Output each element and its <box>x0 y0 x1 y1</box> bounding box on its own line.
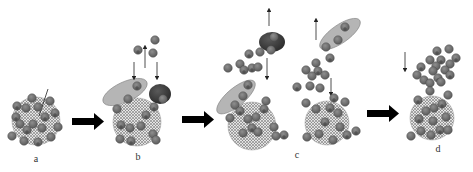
particle <box>341 98 350 107</box>
particle <box>306 82 315 91</box>
particle <box>321 71 330 80</box>
particle <box>442 113 451 122</box>
particle <box>429 117 438 126</box>
particle <box>308 72 317 81</box>
particle <box>252 113 261 122</box>
particle <box>137 122 146 131</box>
particle <box>116 135 125 144</box>
step-arrow-1 <box>72 113 104 130</box>
particle <box>302 99 311 108</box>
process-diagram: a b c <box>0 0 473 172</box>
particle <box>224 64 233 73</box>
particle <box>159 95 168 104</box>
panel-label-b: b <box>136 151 141 162</box>
particle <box>47 133 56 142</box>
particle <box>336 123 345 132</box>
particle <box>445 45 454 54</box>
particle <box>256 48 265 57</box>
particle <box>444 91 453 100</box>
panel-label-c: c <box>295 149 300 160</box>
particle <box>8 132 17 141</box>
particle <box>426 79 435 88</box>
particle <box>334 36 343 45</box>
particle <box>149 49 158 58</box>
particle <box>267 46 276 55</box>
particle <box>124 95 133 104</box>
particle <box>427 131 436 140</box>
particle <box>417 127 426 136</box>
particle <box>22 104 31 113</box>
particle <box>430 104 439 113</box>
step-arrow-2 <box>182 111 214 128</box>
particle <box>407 132 416 141</box>
particle <box>262 97 271 106</box>
particle <box>244 115 253 124</box>
panel-label-a: a <box>34 153 39 164</box>
panel-label-d: d <box>436 143 441 154</box>
panel-b: b <box>99 36 171 162</box>
panel-c: c <box>212 10 365 160</box>
particle <box>329 136 338 145</box>
particle <box>226 114 235 123</box>
particle <box>270 123 279 132</box>
particle <box>151 36 160 45</box>
particle <box>38 124 47 133</box>
particle <box>239 129 248 138</box>
particle <box>316 84 325 93</box>
step-arrow-3 <box>367 105 399 122</box>
particle <box>113 105 122 114</box>
particle <box>322 43 331 52</box>
particle <box>34 103 43 112</box>
particle <box>437 78 446 87</box>
particle <box>312 105 321 114</box>
particle <box>126 124 135 133</box>
panel-a: a <box>8 89 63 164</box>
particle <box>270 33 279 42</box>
particle <box>239 92 248 101</box>
particle <box>426 87 435 96</box>
particle <box>315 130 324 139</box>
particle <box>46 97 55 106</box>
particle <box>28 94 37 103</box>
particle <box>54 123 63 132</box>
particle <box>16 120 25 129</box>
particle <box>303 133 312 142</box>
particle <box>422 107 431 116</box>
particle <box>254 63 263 72</box>
particle <box>444 126 453 135</box>
particle <box>334 109 343 118</box>
particle <box>152 136 161 145</box>
particle <box>312 59 321 68</box>
panel-d: d <box>405 45 460 154</box>
particle <box>272 132 281 141</box>
particle <box>20 137 29 146</box>
particle <box>254 128 263 137</box>
